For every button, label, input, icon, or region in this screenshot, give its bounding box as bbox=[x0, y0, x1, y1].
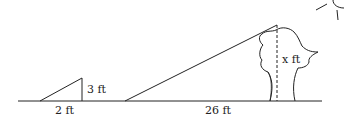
small-base-label: 2 ft bbox=[55, 104, 74, 117]
sun-icon bbox=[333, 0, 344, 8]
small-height-label: 3 ft bbox=[87, 83, 106, 96]
sun-ray-line bbox=[125, 25, 277, 101]
sun-ray bbox=[316, 4, 327, 10]
tree-trunk bbox=[268, 72, 271, 101]
tree-shadow-label: 26 ft bbox=[205, 104, 231, 117]
sun-ray bbox=[337, 10, 338, 20]
small-triangle bbox=[40, 78, 82, 101]
tree-height-label: x ft bbox=[282, 53, 300, 66]
